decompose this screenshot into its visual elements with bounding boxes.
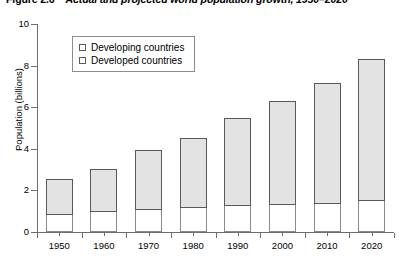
x-axis-tick-minor [282,233,283,236]
y-axis-tick-label: 6 [1,102,29,112]
bar-segment-developed [180,208,207,232]
bar-segment-developing [90,169,117,213]
x-axis-tick-major [171,233,172,238]
bar-segment-developing [180,138,207,208]
bar-segment-developed [314,204,341,232]
bar-segment-developed [269,205,296,232]
x-axis-tick-major [394,233,395,238]
x-axis-tick-major [82,233,83,238]
y-axis-tick-label: 2 [1,185,29,195]
y-axis-tick [31,66,37,67]
y-axis-tick-label: 8 [1,61,29,71]
bar-segment-developing [358,59,385,200]
x-axis-label-1950: 1950 [37,240,81,251]
bar-segment-developed [224,206,251,232]
y-axis-tick [31,24,37,25]
x-axis-label-1990: 1990 [216,240,260,251]
y-axis-labels: 0246810 [0,0,29,268]
legend-item-developed: Developed countries [79,54,184,67]
x-axis-label-1980: 1980 [171,240,215,251]
bar-1970 [135,150,162,232]
x-axis-label-2000: 2000 [260,240,304,251]
x-axis-tick-minor [149,233,150,236]
y-axis-tick-label: 0 [1,227,29,237]
x-axis-tick-minor [104,233,105,236]
x-axis-tick-major [305,233,306,238]
bar-1950 [46,179,73,232]
legend-item-developing: Developing countries [79,41,184,54]
x-axis-label-1960: 1960 [82,240,126,251]
bar-segment-developed [358,201,385,232]
figure-container: Figure 2.6Actual and projected world pop… [0,0,405,268]
x-axis-tick-minor [372,233,373,236]
legend-swatch-developed-icon [79,57,86,64]
figure-title: Figure 2.6Actual and projected world pop… [6,0,405,7]
legend-label-developing: Developing countries [91,43,184,53]
chart-legend: Developing countries Developed countries [72,36,195,72]
x-axis-label-2020: 2020 [350,240,394,251]
x-axis-tick-major [37,233,38,238]
x-axis-tick-major [126,233,127,238]
y-axis-tick-label: 4 [1,144,29,154]
y-axis-tick-label: 10 [1,19,29,29]
x-axis-label-1970: 1970 [127,240,171,251]
bar-segment-developed [135,210,162,232]
x-axis-tick-minor [238,233,239,236]
bar-segment-developed [90,212,117,232]
y-axis-tick [31,107,37,108]
x-axis-tick-minor [327,233,328,236]
bar-2000 [269,101,296,232]
bar-1960 [90,169,117,232]
y-axis-tick [31,149,37,150]
bar-segment-developing [269,101,296,205]
bar-2010 [314,83,341,232]
x-axis-tick-minor [59,233,60,236]
x-axis-tick-major [349,233,350,238]
legend-label-developed: Developed countries [91,56,182,66]
x-axis-tick-major [216,233,217,238]
bar-2020 [358,59,385,232]
bar-segment-developed [46,215,73,232]
y-axis-tick [31,190,37,191]
bar-1990 [224,118,251,232]
bar-segment-developing [224,118,251,206]
legend-swatch-developing-icon [79,44,86,51]
bar-1980 [180,138,207,232]
x-axis-tick-major [260,233,261,238]
x-axis-label-2010: 2010 [305,240,349,251]
bar-segment-developing [314,83,341,204]
x-axis-tick-minor [193,233,194,236]
bar-segment-developing [135,150,162,210]
y-axis-tick [31,232,37,233]
bar-segment-developing [46,179,73,215]
figure-title-text: Actual and projected world population gr… [66,0,348,5]
